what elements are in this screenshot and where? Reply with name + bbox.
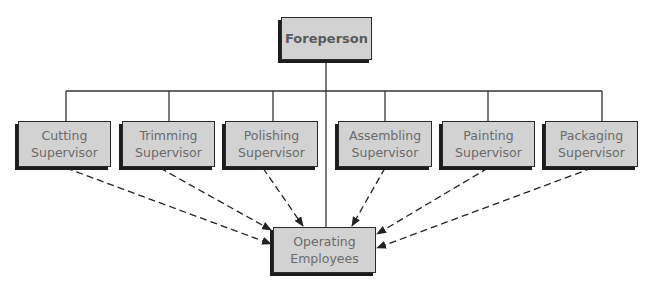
foreperson-label: Foreperson — [285, 30, 368, 47]
operating-employees-label: Operating Employees — [290, 233, 358, 267]
cutting-supervisor-box: Cutting Supervisor — [18, 121, 111, 167]
painting-supervisor-box: Painting Supervisor — [442, 121, 535, 167]
org-chart-diagram: Foreperson Cutting Supervisor Trimming S… — [0, 0, 653, 294]
foreperson-box: Foreperson — [281, 17, 372, 60]
operating-employees-box: Operating Employees — [273, 227, 376, 273]
assembling-supervisor-box: Assembling Supervisor — [338, 121, 432, 167]
assembling-supervisor-label: Assembling Supervisor — [349, 127, 421, 161]
polishing-supervisor-box: Polishing Supervisor — [225, 121, 318, 167]
cutting-supervisor-label: Cutting Supervisor — [31, 127, 98, 161]
painting-supervisor-label: Painting Supervisor — [455, 127, 522, 161]
trimming-supervisor-box: Trimming Supervisor — [122, 121, 215, 167]
polishing-supervisor-label: Polishing Supervisor — [238, 127, 305, 161]
trimming-supervisor-label: Trimming Supervisor — [135, 127, 202, 161]
packaging-supervisor-box: Packaging Supervisor — [545, 121, 638, 167]
packaging-supervisor-label: Packaging Supervisor — [558, 127, 625, 161]
